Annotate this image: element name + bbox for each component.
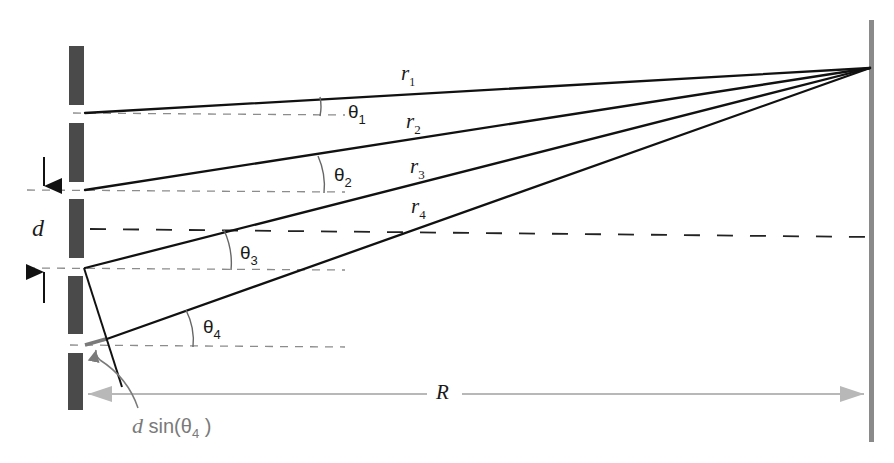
rays <box>85 68 870 340</box>
label-theta2: θ2 <box>334 164 352 190</box>
label-theta4: θ4 <box>203 316 221 342</box>
guide-line-2 <box>27 190 345 192</box>
barrier <box>68 46 84 410</box>
screen <box>869 20 874 442</box>
barrier-segment <box>69 199 84 258</box>
ray-r4 <box>104 68 870 340</box>
arc-theta2 <box>318 156 324 193</box>
central-axis <box>90 229 868 237</box>
label-path-difference: d sin(θ4 ) <box>132 413 211 441</box>
label-r4: r4 <box>411 194 426 222</box>
label-R: R <box>435 380 449 404</box>
barrier-segment <box>69 46 84 105</box>
label-theta1: θ1 <box>348 101 366 127</box>
double-slit-diagram: r1 r2 r3 r4 θ1 θ2 θ3 θ4 d R d sin(θ4 ) <box>0 0 894 463</box>
guide-line-3 <box>27 268 345 270</box>
arc-theta1 <box>320 97 321 116</box>
barrier-segment <box>69 123 84 182</box>
label-r3: r3 <box>410 154 425 182</box>
guide-line-1 <box>73 113 345 115</box>
perpendicular-line <box>84 268 122 387</box>
ray-r1 <box>85 68 870 113</box>
barrier-segment <box>68 276 83 334</box>
path-difference-segment <box>85 339 106 345</box>
path-difference-pointer <box>96 350 138 408</box>
label-r1: r1 <box>401 61 415 89</box>
ray-r3 <box>85 68 870 268</box>
label-d: d <box>32 215 45 241</box>
guide-line-4 <box>70 345 345 347</box>
barrier-segment <box>68 353 83 410</box>
angle-arcs <box>186 97 324 347</box>
label-theta3: θ3 <box>240 242 258 268</box>
arc-theta4 <box>186 310 193 347</box>
arc-theta3 <box>224 230 231 270</box>
label-r2: r2 <box>406 109 421 137</box>
ray-r2 <box>85 68 870 190</box>
